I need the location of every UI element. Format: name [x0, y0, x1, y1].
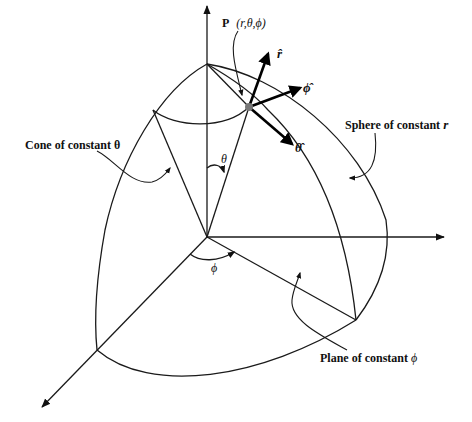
cone-generator-right — [207, 107, 249, 237]
theta-angle-arc — [207, 165, 224, 172]
cone-theta — [153, 64, 249, 237]
cone-label: Cone of constant θ — [25, 138, 120, 152]
plane-label: Plane of constant ϕ — [320, 351, 417, 365]
phi-radial-line — [207, 237, 356, 320]
sphere-octant — [96, 64, 388, 376]
point-p-label: P (r,θ,ϕ) — [222, 13, 266, 30]
phi-angle-label: ϕ — [211, 261, 217, 275]
y-axis — [42, 237, 207, 407]
r-hat-label: r̂ — [277, 46, 283, 61]
plane-callout — [292, 273, 347, 350]
r-hat-vector — [249, 54, 268, 107]
cone-rim — [153, 107, 249, 124]
sphere-edge-left — [96, 64, 207, 350]
phi-plane-arc — [207, 64, 356, 320]
cone-generator-left — [153, 110, 207, 237]
theta-angle-label: θ — [221, 152, 227, 166]
sphere-label: Sphere of constant r — [345, 117, 449, 132]
phi-hat-label: ϕ̂ — [303, 80, 314, 95]
phi-hat-vector — [249, 88, 300, 107]
sphere-edge-bottom — [97, 320, 356, 376]
cone-top-edge — [207, 64, 249, 107]
point-p-marker — [245, 103, 253, 111]
cone-callout — [97, 151, 170, 182]
spherical-coordinates-diagram: P (r,θ,ϕ) r̂ ϕ̂ θ̂ θ ϕ Cone of constant … — [0, 0, 472, 422]
phi-angle-arc — [190, 252, 234, 260]
axes — [42, 6, 444, 407]
